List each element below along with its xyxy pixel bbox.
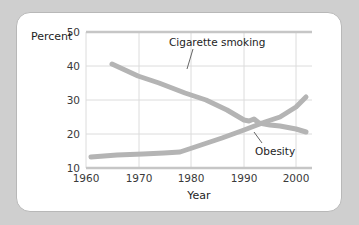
chart-svg: Cigarette smoking Obesity 50 40 30 20 10… <box>17 13 343 213</box>
series-label-cigarette-smoking: Cigarette smoking <box>169 36 265 48</box>
x-tick-label-1980: 1980 <box>178 172 205 184</box>
y-tick-label-20: 20 <box>67 128 80 140</box>
y-axis-title: Percent <box>31 30 73 43</box>
x-tick-label-1970: 1970 <box>126 172 153 184</box>
y-tick-label-40: 40 <box>67 60 80 72</box>
x-tick-label-1990: 1990 <box>231 172 258 184</box>
figure-card: Cigarette smoking Obesity 50 40 30 20 10… <box>16 12 342 212</box>
x-axis-title: Year <box>186 189 211 202</box>
x-tick-label-2000: 2000 <box>283 172 310 184</box>
line-chart: Cigarette smoking Obesity 50 40 30 20 10… <box>17 13 343 213</box>
y-tick-label-30: 30 <box>67 94 80 106</box>
x-tick-label-1960: 1960 <box>73 172 100 184</box>
series-label-obesity: Obesity <box>255 145 295 157</box>
